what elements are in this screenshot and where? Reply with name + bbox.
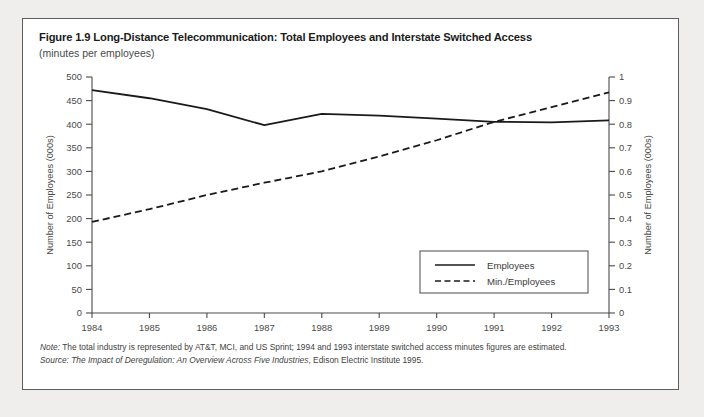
figure-header: Figure 1.9 Long-Distance Telecommunicati… [39, 30, 662, 60]
left-axis-title: Number of Employees (000s) [45, 135, 55, 255]
right-tick-label: 0.3 [619, 237, 632, 248]
series-line-1 [92, 90, 609, 125]
left-tick-label: 100 [66, 260, 82, 271]
x-tick-label: 1988 [311, 322, 332, 333]
chart-subtitle: (minutes per employees) [39, 46, 662, 60]
x-tick-label: 1984 [82, 322, 103, 333]
left-tick-label: 450 [66, 95, 82, 106]
x-tick-label: 1993 [599, 322, 620, 333]
chart-plot-area: 050100150200250300350400450500 00.10.20.… [39, 71, 662, 336]
series-line-2 [92, 92, 609, 222]
right-tick-label: 0.6 [619, 166, 632, 177]
left-tick-label: 200 [66, 213, 82, 224]
source-label: Source: [40, 355, 69, 365]
right-axis-ticks: 00.10.20.30.40.50.60.70.80.91 [609, 71, 632, 318]
x-tick-label: 1985 [139, 322, 160, 333]
note-label: Note: [40, 342, 60, 352]
left-tick-label: 300 [66, 166, 82, 177]
x-tick-label: 1986 [196, 322, 217, 333]
left-tick-label: 0 [77, 307, 82, 318]
note-line: Note: The total industry is represented … [40, 341, 662, 354]
source-title: The Impact of Deregulation: An Overview … [69, 355, 309, 365]
right-tick-label: 0.4 [619, 213, 632, 224]
left-axis-ticks: 050100150200250300350400450500 [66, 71, 92, 318]
right-axis-title: Number of Employees (000s) [643, 135, 653, 255]
figure-card: Figure 1.9 Long-Distance Telecommunicati… [22, 18, 679, 390]
chart-title: Figure 1.9 Long-Distance Telecommunicati… [39, 30, 662, 44]
source-publisher: , Edison Electric Institute 1995. [308, 355, 423, 365]
left-tick-label: 500 [66, 71, 82, 82]
right-tick-label: 0 [619, 307, 624, 318]
figure-footnotes: Note: The total industry is represented … [40, 341, 662, 367]
right-tick-label: 1 [619, 71, 624, 82]
x-tick-label: 1989 [369, 322, 390, 333]
right-tick-label: 0.1 [619, 284, 632, 295]
x-tick-label: 1991 [484, 322, 505, 333]
source-line: Source: The Impact of Deregulation: An O… [40, 354, 662, 367]
right-tick-label: 0.2 [619, 260, 632, 271]
left-tick-label: 50 [72, 284, 82, 295]
x-axis-ticks: 1984198519861987198819891990199119921993 [82, 313, 620, 333]
right-tick-label: 0.9 [619, 95, 632, 106]
right-tick-label: 0.8 [619, 119, 632, 130]
data-series-group [92, 90, 609, 222]
left-tick-label: 400 [66, 119, 82, 130]
x-tick-label: 1987 [254, 322, 275, 333]
legend-label-employees: Employees [487, 260, 535, 271]
right-tick-label: 0.7 [619, 142, 632, 153]
legend-label-min-per-employees: Min./Employees [487, 276, 555, 287]
line-chart-svg: 050100150200250300350400450500 00.10.20.… [39, 71, 662, 336]
right-tick-label: 0.5 [619, 189, 632, 200]
x-tick-label: 1992 [541, 322, 562, 333]
chart-legend: Employees Min./Employees [420, 251, 588, 293]
left-tick-label: 150 [66, 237, 82, 248]
left-tick-label: 250 [66, 189, 82, 200]
x-tick-label: 1990 [426, 322, 447, 333]
note-text: The total industry is represented by AT&… [60, 342, 567, 352]
left-tick-label: 350 [66, 142, 82, 153]
